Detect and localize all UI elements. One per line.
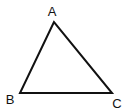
triangle-diagram: A B C (0, 0, 127, 112)
vertex-label-b: B (6, 92, 15, 107)
vertex-label-c: C (112, 96, 121, 111)
triangle-abc (20, 22, 112, 93)
vertex-label-a: A (48, 4, 57, 19)
